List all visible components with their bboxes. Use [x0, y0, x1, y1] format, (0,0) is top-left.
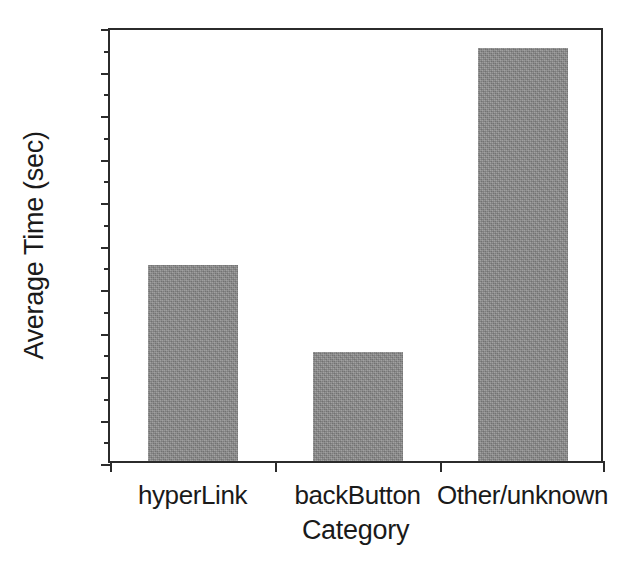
y-axis-tick-minor: [104, 442, 110, 444]
plot-area: 02468101214161820hyperLinkbackButtonOthe…: [108, 28, 603, 463]
x-axis-category-label: Other/unknown: [430, 481, 615, 509]
x-axis-category-label: hyperLink: [100, 481, 285, 509]
x-axis-tick: [440, 461, 442, 472]
y-axis-tick-minor: [104, 268, 110, 270]
x-axis-tick: [275, 461, 277, 472]
x-axis-tick: [603, 461, 605, 472]
y-axis-tick-major: [101, 29, 110, 31]
y-axis-tick-minor: [104, 399, 110, 401]
y-axis-tick-minor: [104, 181, 110, 183]
y-axis-tick-minor: [104, 355, 110, 357]
y-axis-tick-major: [101, 73, 110, 75]
bar-chart-figure: Average Time (sec) 02468101214161820hype…: [0, 0, 625, 564]
x-axis-title: Category: [108, 514, 603, 546]
x-axis-tick: [110, 461, 112, 472]
x-axis-category-label: backButton: [265, 481, 450, 509]
y-axis-tick-major: [101, 421, 110, 423]
y-axis-tick-minor: [104, 94, 110, 96]
y-axis-tick-minor: [104, 225, 110, 227]
y-axis-tick-minor: [104, 312, 110, 314]
y-axis-tick-major: [101, 116, 110, 118]
y-axis-tick-major: [101, 464, 110, 466]
bar: [478, 48, 568, 461]
y-axis-tick-minor: [104, 51, 110, 53]
bar: [148, 265, 238, 461]
y-axis-tick-major: [101, 160, 110, 162]
y-axis-tick-minor: [104, 138, 110, 140]
y-axis-tick-major: [101, 247, 110, 249]
y-axis-tick-major: [101, 334, 110, 336]
bar: [313, 352, 403, 461]
y-axis-tick-major: [101, 290, 110, 292]
y-axis-tick-major: [101, 377, 110, 379]
y-axis-tick-major: [101, 203, 110, 205]
y-axis-title: Average Time (sec): [14, 28, 54, 463]
